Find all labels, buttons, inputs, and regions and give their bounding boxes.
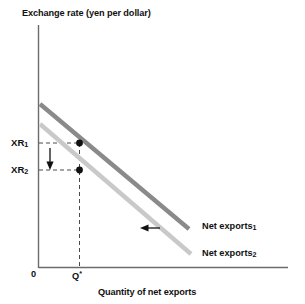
- x-tick-label-qstar: Q*: [72, 270, 82, 281]
- equilibrium-point-1: [76, 140, 83, 147]
- x-axis-title: Quantity of net exports: [98, 288, 196, 297]
- curve-net-exports-1: [40, 104, 189, 229]
- exchange-rate-down-arrow: [46, 148, 53, 170]
- y-tick-label-xr2: XR2: [11, 165, 28, 175]
- origin-label: 0: [31, 270, 36, 279]
- chart-plot-area: [0, 0, 305, 304]
- equilibrium-point-2: [76, 167, 83, 174]
- y-tick-label-xr1: XR1: [11, 138, 28, 148]
- curve-net-exports-2: [40, 124, 191, 254]
- curve-label-net-exports-2: Net exports2: [202, 249, 257, 258]
- net-exports-exchange-rate-chart: Exchange rate (yen per dollar) XR1 XR2: [0, 0, 305, 304]
- curve-label-net-exports-1: Net exports1: [202, 222, 257, 231]
